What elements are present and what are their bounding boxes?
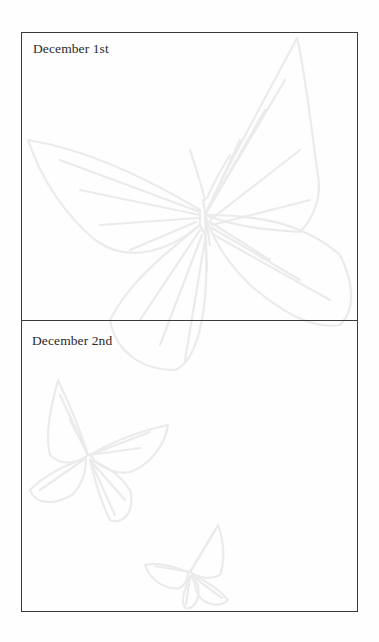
journal-entry-frame: December 1st December 2nd bbox=[21, 32, 358, 612]
journal-page: December 1st December 2nd bbox=[0, 0, 379, 642]
entry-date-label: December 1st bbox=[33, 41, 109, 57]
entry-writing-area[interactable] bbox=[22, 63, 357, 319]
entry-writing-area[interactable] bbox=[22, 351, 357, 612]
entry-date-label: December 2nd bbox=[32, 333, 112, 349]
entry-december-2nd: December 2nd bbox=[22, 320, 357, 612]
entry-december-1st: December 1st bbox=[22, 33, 357, 319]
